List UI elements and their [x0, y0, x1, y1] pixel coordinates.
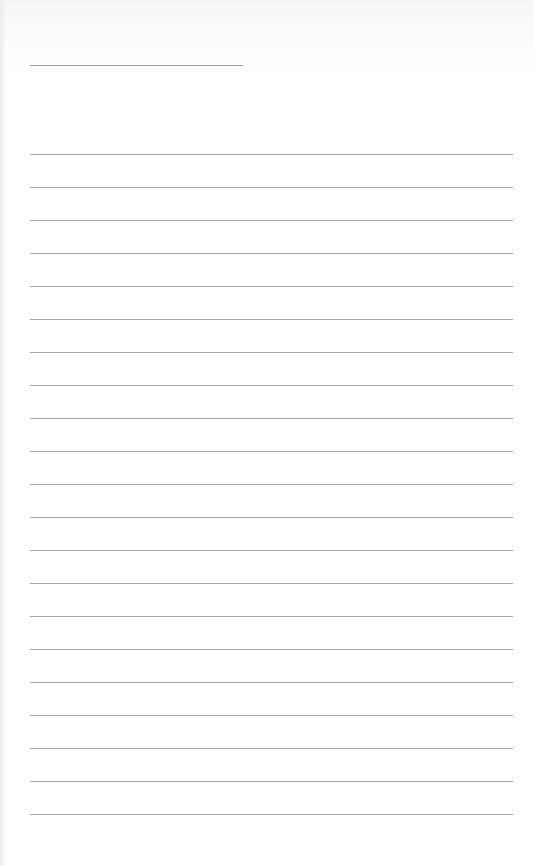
ruled-line — [30, 451, 513, 452]
ruled-line — [30, 253, 513, 254]
ruled-line — [30, 715, 513, 716]
ruled-line — [30, 484, 513, 485]
ruled-line — [30, 517, 513, 518]
ruled-line — [30, 220, 513, 221]
ruled-line — [30, 385, 513, 386]
ruled-line — [30, 682, 513, 683]
ruled-line — [30, 814, 513, 815]
ruled-line — [30, 781, 513, 782]
ruled-line — [30, 616, 513, 617]
ruled-line — [30, 748, 513, 749]
ruled-line — [30, 319, 513, 320]
title-line — [30, 65, 243, 66]
ruled-line — [30, 154, 513, 155]
lined-paper-sheet — [0, 0, 534, 865]
ruled-line — [30, 649, 513, 650]
ruled-line — [30, 418, 513, 419]
ruled-line — [30, 286, 513, 287]
paper-edge-shadow — [0, 0, 6, 865]
ruled-line — [30, 187, 513, 188]
ruled-line — [30, 352, 513, 353]
ruled-line — [30, 583, 513, 584]
ruled-line — [30, 550, 513, 551]
